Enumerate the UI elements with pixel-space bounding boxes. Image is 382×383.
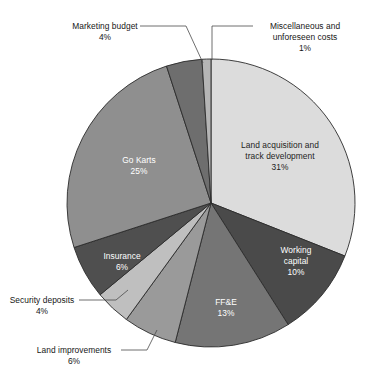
slice-label-miscellaneous: Miscellaneous and unforeseen costs 1%: [270, 21, 341, 53]
pie-slices-group: [67, 59, 355, 347]
slice-label-security-deposits-pct: 4%: [36, 306, 49, 316]
slice-label-miscellaneous-line1: Miscellaneous and: [270, 21, 341, 31]
slice-label-working-capital-line1: Working: [281, 245, 312, 255]
slice-label-marketing-budget-line1: Marketing budget: [72, 21, 138, 31]
slice-label-land-improvements-pct: 6%: [68, 356, 81, 366]
slice-label-working-capital-line2: capital: [284, 256, 309, 266]
slice-label-insurance-pct: 6%: [116, 262, 129, 272]
slice-label-go-karts-pct: 25%: [131, 166, 148, 176]
slice-label-land-acquisition-line1: Land acquisition and: [241, 140, 319, 150]
slice-label-security-deposits-line1: Security deposits: [10, 295, 75, 305]
slice-label-ffe-line1: FF&E: [215, 297, 237, 307]
slice-label-go-karts-line1: Go Karts: [122, 155, 155, 165]
slice-label-land-acquisition-pct: 31%: [272, 162, 289, 172]
leader-line-marketing-budget: [140, 26, 203, 63]
slice-label-marketing-budget: Marketing budget 4%: [72, 21, 138, 42]
slice-label-land-improvements: Land improvements 6%: [37, 345, 111, 366]
slice-label-ffe: FF&E 13%: [215, 297, 237, 318]
pie-chart-svg: Land acquisition and track development 3…: [0, 0, 382, 383]
slice-label-working-capital-pct: 10%: [288, 267, 305, 277]
slice-label-land-acquisition-line2: track development: [245, 151, 315, 161]
slice-label-miscellaneous-pct: 1%: [299, 43, 312, 53]
leader-line-miscellaneous: [212, 26, 253, 60]
pie-chart-figure: Land acquisition and track development 3…: [0, 0, 382, 383]
slice-label-ffe-pct: 13%: [218, 308, 235, 318]
slice-label-insurance-line1: Insurance: [103, 251, 141, 261]
slice-label-marketing-budget-pct: 4%: [99, 32, 112, 42]
slice-label-land-improvements-line1: Land improvements: [37, 345, 111, 355]
slice-label-miscellaneous-line2: unforeseen costs: [273, 32, 338, 42]
slice-label-security-deposits: Security deposits 4%: [10, 295, 75, 316]
